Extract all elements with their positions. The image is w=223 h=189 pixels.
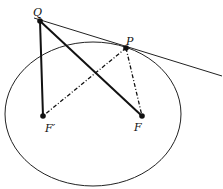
diagram-canvas: Q P F′ F xyxy=(0,0,223,189)
point-q xyxy=(37,18,43,24)
point-fprime xyxy=(40,113,46,119)
label-q: Q xyxy=(33,6,42,19)
label-fprime: F′ xyxy=(44,122,56,135)
segment-p-f xyxy=(126,48,142,116)
label-p: P xyxy=(125,35,134,48)
segment-q-fprime xyxy=(40,21,43,116)
label-f: F xyxy=(133,121,142,134)
point-f xyxy=(139,113,145,119)
segment-p-fprime xyxy=(43,48,126,116)
ellipse xyxy=(5,42,181,186)
